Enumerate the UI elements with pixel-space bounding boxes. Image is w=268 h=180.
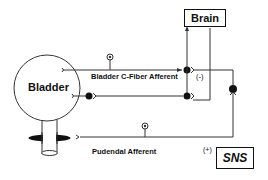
sns-box: SNS <box>216 147 254 169</box>
pudendal-label: Pudendal Afferent <box>92 147 156 156</box>
brain-box: Brain <box>184 9 226 27</box>
efferent-synapse-icon <box>86 93 93 100</box>
bladder-label: Bladder <box>28 81 69 93</box>
spinal-synapse-icon <box>184 93 191 100</box>
inhibitory-sign: (-) <box>196 72 204 81</box>
excitatory-sign: (+) <box>203 146 212 153</box>
c-fiber-label: Bladder C-Fiber Afferent <box>91 72 178 81</box>
urethra-opening <box>42 151 58 156</box>
